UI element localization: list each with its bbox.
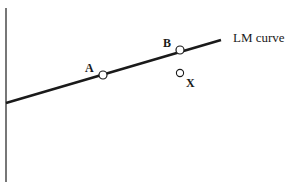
point-a-label: A — [85, 61, 94, 75]
lm-curve-label: LM curve — [233, 30, 285, 45]
lm-curve-line — [6, 40, 221, 103]
lm-diagram: A B X LM curve — [0, 0, 291, 182]
point-x-marker — [176, 69, 183, 76]
point-b-marker — [176, 46, 184, 54]
point-x-label: X — [186, 76, 195, 90]
point-b-label: B — [163, 36, 171, 50]
point-a-marker — [99, 71, 107, 79]
